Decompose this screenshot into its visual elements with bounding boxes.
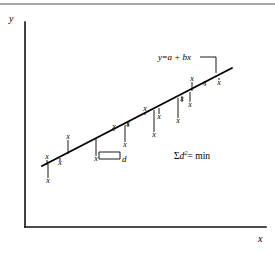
x-axis-label: x: [258, 234, 262, 244]
data-point-marker: x: [190, 75, 194, 83]
data-point-marker: x: [123, 141, 127, 149]
objective-value: min: [195, 151, 210, 161]
data-point-marker: x: [152, 131, 156, 139]
equation-a-term: a: [167, 52, 172, 62]
residual-lines-group: [47, 78, 219, 178]
residual-callout-bracket: [99, 152, 120, 159]
data-point-marker: x: [157, 113, 161, 121]
data-point-marker: x: [94, 155, 98, 163]
data-point-marker: x: [188, 101, 192, 109]
data-point-marker: x: [45, 153, 49, 161]
data-point-marker: x: [217, 79, 221, 87]
y-axis-label: y: [9, 14, 13, 24]
data-point-marker: x: [143, 105, 147, 113]
data-point-marker: x: [180, 95, 184, 103]
data-point-marker: x: [176, 117, 180, 125]
equation-plus-sign: +: [175, 52, 180, 62]
figure-canvas: [0, 0, 275, 253]
equation-x-term: x: [187, 52, 191, 62]
data-point-marker: x: [58, 159, 62, 167]
data-point-marker: x: [112, 123, 116, 131]
objective-equals-sign: =: [188, 151, 193, 161]
equation-leader-line: [200, 57, 216, 73]
line-equation-label: y=a + bx: [158, 53, 191, 62]
data-point-marker: x: [203, 79, 207, 87]
data-point-marker: x: [66, 133, 70, 141]
data-point-marker: x: [46, 177, 50, 185]
data-point-marker: x: [126, 120, 130, 128]
least-squares-regression-figure: x x x x x x x x x x x x x x x x x y x d …: [0, 0, 275, 253]
objective-function-label: Σd2= min: [174, 150, 210, 162]
residual-d-label: d: [122, 155, 127, 164]
